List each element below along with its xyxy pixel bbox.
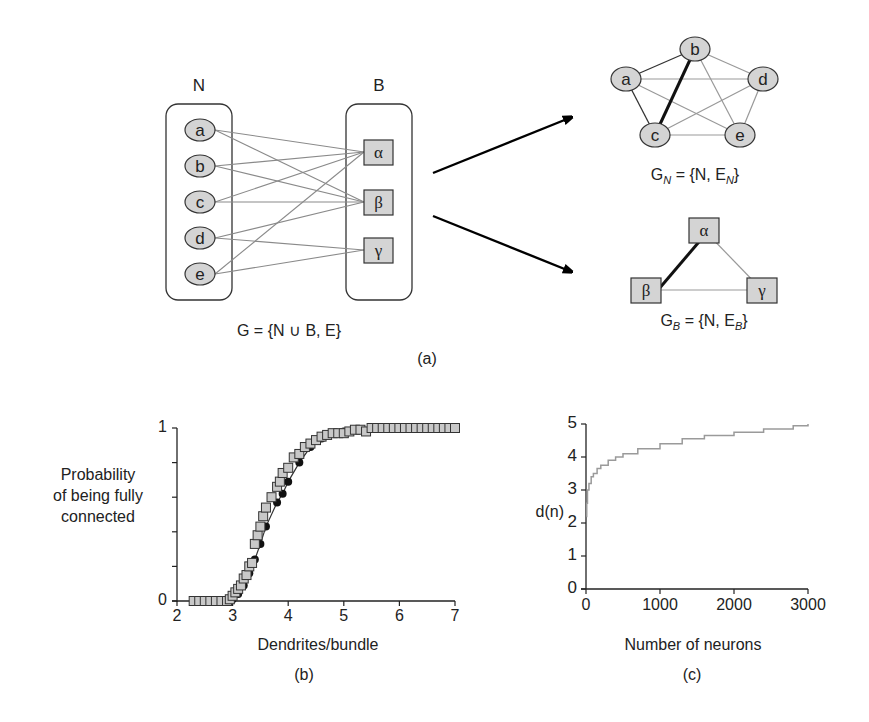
gb-edge-thick [658, 236, 704, 290]
bipartite-graph: abcde αβγ [166, 104, 412, 300]
bipartite-caption: G = {N ∪ B, E} [237, 321, 341, 340]
chart-c-ylabel: d(n) [536, 503, 564, 521]
chart-c-ytick: 0 [568, 578, 577, 598]
svg-text:e: e [195, 265, 204, 284]
gn-node-a: a [611, 67, 641, 91]
gn-node-c: c [640, 123, 670, 147]
chart-b-ylabel-line1: Probability [61, 466, 136, 484]
gn-edge [626, 79, 740, 135]
chart-b-square-point [284, 463, 293, 472]
bipartite-edge [215, 238, 364, 250]
b-node: α [364, 140, 393, 165]
bipartite-edge [215, 202, 364, 238]
svg-text:b: b [690, 40, 699, 59]
svg-text:α: α [374, 143, 383, 162]
chart-b-ylabel-line2: of being fully [53, 487, 143, 505]
chart-b-xtick: 2 [173, 607, 182, 625]
bipartite-edges [215, 130, 364, 274]
chart-b-xtick: 5 [339, 607, 348, 625]
chart-b-ytick: 1 [158, 418, 167, 436]
svg-text:e: e [735, 126, 744, 145]
gb-caption-sub2: B [735, 320, 742, 332]
chart-c-ytick: 5 [568, 413, 577, 433]
n-node-d: d [185, 227, 215, 249]
set-b-label: B [373, 76, 384, 96]
gn-edge-thick [655, 49, 695, 135]
n-node-c: c [185, 191, 215, 213]
svg-text:d: d [758, 70, 767, 89]
gn-caption-end: } [734, 166, 739, 183]
chart-c-xtick: 1000 [642, 596, 678, 614]
chart-b-xtick: 3 [228, 607, 237, 625]
b-nodes: αβγ [364, 140, 393, 263]
chart-c-xlabel: Number of neurons [625, 636, 762, 654]
chart-c-ytick: 4 [568, 446, 577, 466]
gn-node-d: d [748, 67, 778, 91]
chart-b-square-point [261, 503, 270, 512]
svg-text:c: c [651, 126, 660, 145]
chart-b-square-point [250, 539, 259, 548]
bipartite-edge [215, 166, 364, 202]
chart-b-ylabel-line3: connected [61, 508, 135, 526]
chart-b-square-point [267, 493, 276, 502]
n-node-b: b [185, 155, 215, 177]
b-node: γ [364, 238, 393, 263]
svg-text:d: d [195, 229, 204, 248]
svg-text:β: β [374, 193, 383, 212]
chart-c-xtick: 2000 [716, 596, 752, 614]
arrow-to-gb [433, 216, 572, 272]
chart-b-xtick: 4 [284, 607, 293, 625]
chart-b-square-point [259, 512, 268, 521]
svg-text:b: b [195, 157, 204, 176]
gn-caption-sub2: N [726, 174, 734, 186]
projection-b-graph: αβγ [631, 218, 777, 303]
svg-text:a: a [621, 70, 631, 89]
panel-c-label: (c) [683, 666, 702, 684]
gn-caption-main: G [651, 166, 663, 183]
chart-c-ytick: 1 [568, 545, 577, 565]
b-node: β [364, 190, 393, 215]
gn-edge [695, 49, 740, 135]
svg-text:a: a [195, 121, 205, 140]
gb-caption-rest: = {N, E [680, 312, 735, 329]
chart-c-ytick: 2 [568, 512, 577, 532]
panel-b-label: (b) [294, 666, 314, 684]
gn-node-b: b [680, 37, 710, 61]
svg-text:γ: γ [757, 281, 766, 300]
chart-b-xtick: 6 [395, 607, 404, 625]
chart-b-xlabel: Dendrites/bundle [258, 636, 379, 654]
chart-c [581, 424, 808, 594]
gn-node-e: e [725, 123, 755, 147]
arrow-to-gn [433, 117, 572, 173]
chart-c-ytick: 3 [568, 479, 577, 499]
gb-caption-main: G [660, 312, 672, 329]
chart-b-square-point [451, 424, 460, 433]
n-node-a: a [185, 119, 215, 141]
set-n-label: N [193, 76, 205, 96]
chart-b-circle-point [284, 478, 292, 486]
chart-c-curve [586, 424, 808, 516]
n-nodes: abcde [185, 119, 215, 285]
svg-text:β: β [642, 281, 651, 300]
bipartite-edge [215, 250, 364, 274]
chart-b-square-point [253, 531, 262, 540]
svg-text:c: c [196, 193, 205, 212]
gb-caption-sub: B [673, 320, 680, 332]
projection-n-graph: abcde [611, 37, 778, 147]
chart-b-ytick: 0 [158, 591, 167, 609]
gn-caption-rest: = {N, E [671, 166, 726, 183]
gb-node: α [689, 218, 719, 243]
chart-c-xtick: 3000 [790, 596, 826, 614]
chart-c-xtick: 0 [582, 596, 591, 614]
chart-b [172, 424, 460, 607]
panel-a-label: (a) [417, 350, 437, 368]
projection-n-caption: GN = {N, EN} [651, 166, 739, 186]
n-node-e: e [185, 263, 215, 285]
gb-node: γ [747, 278, 777, 303]
gb-caption-end: } [742, 312, 747, 329]
svg-text:γ: γ [374, 241, 383, 260]
chart-b-square-point [275, 477, 284, 486]
svg-text:α: α [700, 221, 709, 240]
chart-b-square-point [248, 558, 257, 567]
gb-node: β [631, 278, 661, 303]
